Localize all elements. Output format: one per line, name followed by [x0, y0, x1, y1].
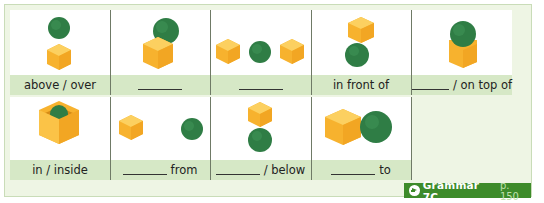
label-suffix: / on top of — [453, 78, 512, 92]
grammar-reference-link[interactable]: Grammar 7C p. 150 — [404, 183, 531, 198]
ball-above-cube-illustration — [10, 10, 110, 75]
divider — [210, 10, 211, 95]
ball-next-to-cube-illustration — [311, 97, 411, 160]
scene-ball-on-cube — [411, 10, 512, 75]
ball-between-cubes-illustration — [210, 10, 311, 75]
scene-ball-between-cubes — [210, 10, 311, 75]
cell-between — [210, 10, 311, 95]
cell-on-top-of: / on top of — [411, 10, 512, 95]
answer-blank[interactable] — [138, 80, 182, 90]
scene-ball-in-front-of-cube — [311, 10, 411, 75]
label-suffix: / below — [264, 163, 306, 177]
cell-next-to: to — [311, 97, 411, 180]
cell-label: / below — [210, 160, 311, 180]
answer-blank[interactable] — [239, 80, 283, 90]
ball-below-cube-illustration — [210, 97, 311, 160]
cell-label: to — [311, 160, 411, 180]
ball-in-front-of-cube-illustration — [311, 10, 411, 75]
cell-label: from — [110, 160, 210, 180]
cell-above-over: above / over — [10, 10, 110, 95]
answer-blank[interactable] — [331, 165, 375, 175]
divider — [311, 97, 312, 180]
divider — [311, 10, 312, 95]
cell-label — [210, 75, 311, 95]
scene-ball-next-to-cube — [311, 97, 411, 160]
cell-behind — [110, 10, 210, 95]
label-suffix: to — [379, 163, 391, 177]
cell-in-front-of: in front of — [311, 10, 411, 95]
label-suffix: from — [171, 163, 198, 177]
scene-ball-in-cube — [10, 97, 110, 160]
scene-ball-far-from-cube — [110, 97, 210, 160]
scene-ball-behind-cube — [110, 10, 210, 75]
grammar-reference-title: Grammar 7C — [423, 179, 497, 203]
cell-label: above / over — [10, 75, 110, 95]
answer-blank[interactable] — [411, 80, 449, 90]
divider — [110, 10, 111, 95]
cell-far-from: from — [110, 97, 210, 180]
scene-ball-above-cube — [10, 10, 110, 75]
cell-under-below: / below — [210, 97, 311, 180]
divider — [411, 10, 412, 95]
cell-label: in front of — [311, 75, 411, 95]
ball-behind-cube-illustration — [110, 10, 210, 75]
divider — [210, 97, 211, 180]
divider — [110, 97, 111, 180]
cell-in-inside: in / inside — [10, 97, 110, 180]
ball-in-cube-illustration — [10, 97, 110, 160]
answer-blank[interactable] — [216, 165, 260, 175]
cell-label — [110, 75, 210, 95]
arrow-right-circle-icon — [409, 185, 420, 196]
ball-on-cube-illustration — [411, 10, 512, 75]
scene-ball-below-cube — [210, 97, 311, 160]
divider — [411, 97, 412, 180]
cell-label: / on top of — [411, 75, 512, 95]
answer-blank[interactable] — [123, 165, 167, 175]
ball-far-from-cube-illustration — [110, 97, 210, 160]
cell-label: in / inside — [10, 160, 110, 180]
grammar-reference-page: p. 150 — [500, 180, 531, 202]
